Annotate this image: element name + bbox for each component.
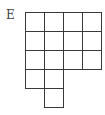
grid-cell	[44, 50, 64, 70]
grid-cell	[82, 50, 102, 70]
grid-cell	[25, 69, 45, 89]
grid-cell	[63, 31, 83, 51]
grid-cell	[63, 50, 83, 70]
figure-label: E	[6, 8, 15, 22]
grid-cell	[25, 31, 45, 51]
grid-cell	[44, 88, 64, 108]
grid-cell	[82, 31, 102, 51]
grid-cell	[63, 12, 83, 32]
grid-cell	[25, 50, 45, 70]
grid-cell	[25, 12, 45, 32]
grid-cell	[44, 12, 64, 32]
grid-cell	[82, 12, 102, 32]
grid-cell	[44, 69, 64, 89]
grid-cell	[44, 31, 64, 51]
